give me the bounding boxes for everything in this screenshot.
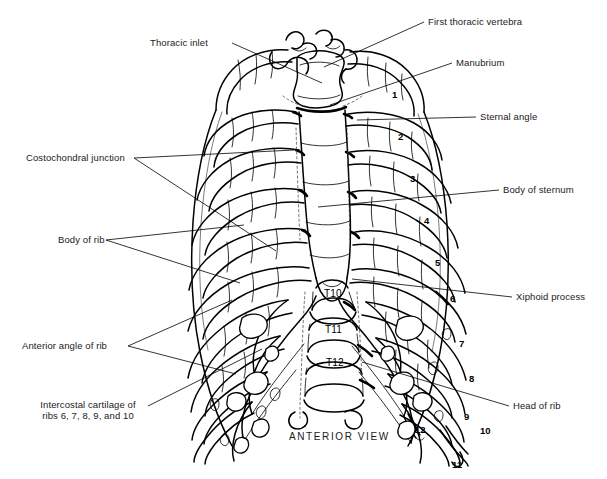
view-caption: ANTERIOR VIEW <box>289 431 390 442</box>
leader-anterior-angle-of-rib <box>128 300 232 346</box>
rib-number-10: 10 <box>480 425 491 436</box>
right-ribcage-drawing <box>338 51 468 466</box>
label-manubrium: Manubrium <box>456 57 504 68</box>
rib-number-8: 8 <box>469 373 474 384</box>
leader-sternal-angle <box>357 117 476 120</box>
vertebra-label-t12: T12 <box>326 357 344 368</box>
rib-number-3: 3 <box>410 173 415 184</box>
label-body-of-rib: Body of rib <box>58 234 105 245</box>
label-body-of-sternum: Body of sternum <box>503 184 574 195</box>
rib-number-2: 2 <box>398 131 403 142</box>
rib-number-11: 11 <box>452 459 462 470</box>
leader-body-of-rib-2 <box>106 240 240 283</box>
label-intercostal-cartilage: Intercostal cartilage of ribs 6, 7, 8, 9… <box>28 399 148 421</box>
vertebra-label-t11: T11 <box>325 324 342 335</box>
leader-costochondral-junction <box>134 150 294 158</box>
label-anterior-angle-of-rib: Anterior angle of rib <box>22 340 107 351</box>
rib-number-1: 1 <box>392 89 397 100</box>
left-ribcage-drawing <box>188 50 316 464</box>
rib-number-9: 9 <box>464 411 469 422</box>
rib-number-4: 4 <box>424 215 429 226</box>
leader-costochondral-junction-2 <box>134 158 276 251</box>
vertebra-label-t10: T10 <box>324 288 342 299</box>
leader-body-of-sternum <box>318 190 499 207</box>
rib-number-7: 7 <box>459 338 464 349</box>
sternum-drawing <box>293 51 350 301</box>
label-xiphoid-process: Xiphoid process <box>516 291 585 302</box>
thoracic-cage-figure: Thoracic inlet Costochondral junction Bo… <box>0 0 607 479</box>
rib-number-6: 6 <box>450 293 455 304</box>
label-head-of-rib: Head of rib <box>513 400 561 411</box>
rib-number-5: 5 <box>435 257 440 268</box>
leader-first-thoracic-vertebra <box>324 22 424 67</box>
label-sternal-angle: Sternal angle <box>480 111 537 122</box>
label-first-thoracic-vertebra: First thoracic vertebra <box>428 16 522 27</box>
thoracic-vertebrae-drawing <box>289 280 364 429</box>
first-thoracic-vertebra-drawing <box>270 30 357 83</box>
leader-body-of-rib <box>106 225 244 240</box>
leader-xiphoid-process <box>352 279 512 297</box>
label-costochondral-junction: Costochondral junction <box>26 152 125 163</box>
label-thoracic-inlet: Thoracic inlet <box>150 37 208 48</box>
rib-number-12: 12 <box>415 424 426 435</box>
